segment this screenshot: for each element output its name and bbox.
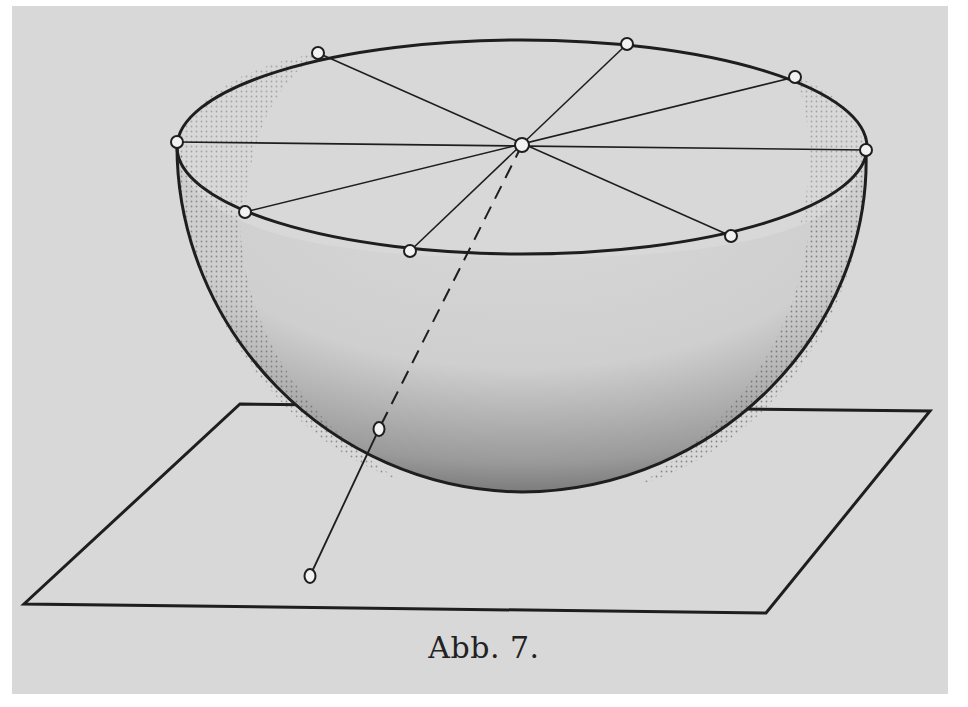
hemisphere-body xyxy=(177,142,866,492)
hemisphere-figure xyxy=(0,0,968,707)
figure-caption: Abb. 7. xyxy=(0,630,968,665)
center-point xyxy=(515,138,529,152)
plane-point xyxy=(305,569,316,583)
sphere-surface-point xyxy=(374,422,385,436)
